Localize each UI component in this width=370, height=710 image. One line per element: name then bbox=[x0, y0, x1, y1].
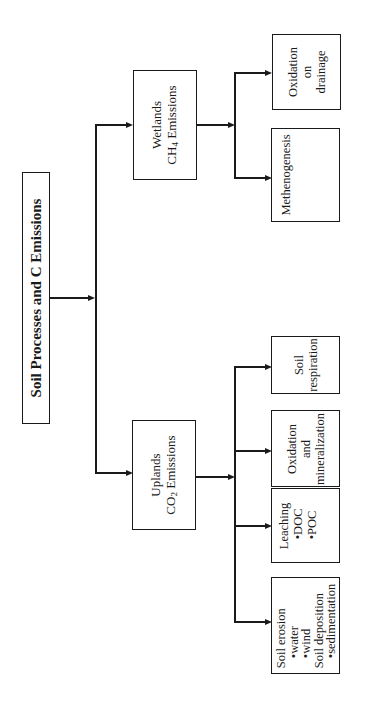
arrow-root-icon bbox=[88, 295, 95, 301]
soil-respiration-label: Soil respiration bbox=[292, 338, 320, 391]
oxidation-on-drainage-label: Oxidation on drainage bbox=[286, 47, 328, 97]
methanogenesis-box: Methenogenesis bbox=[271, 128, 340, 222]
connector-wetlands-bar bbox=[234, 72, 236, 178]
oxidation-mineralization-box: Oxidation and mineralization bbox=[271, 410, 340, 487]
leaching-label: Leaching •DOC •POC bbox=[277, 502, 319, 549]
connector-to-soil-erosion bbox=[234, 621, 266, 623]
connector-to-soil-respiration bbox=[234, 366, 266, 368]
connector-to-methanogenesis bbox=[234, 177, 266, 179]
wetlands-title: Wetlands bbox=[150, 85, 165, 164]
wetlands-subtitle: CH4 Emissions bbox=[165, 85, 180, 164]
connector-to-leaching bbox=[234, 525, 266, 527]
connector-uplands-out bbox=[196, 476, 229, 478]
arrow-wetlands-icon bbox=[126, 122, 133, 128]
uplands-label: Uplands CO2 Emissions bbox=[149, 435, 179, 514]
uplands-subtitle: CO2 Emissions bbox=[164, 435, 179, 514]
connector-to-oxidation-drainage bbox=[234, 72, 266, 74]
connector-root bbox=[50, 297, 90, 299]
connector-wetlands-out bbox=[197, 124, 229, 126]
wetlands-box: Wetlands CH4 Emissions bbox=[133, 70, 197, 180]
arrow-oxidation-drainage-icon bbox=[265, 70, 272, 76]
connector-to-wetlands bbox=[95, 124, 127, 126]
connector-trunk bbox=[95, 124, 97, 473]
soil-erosion-label: Soil erosion •water •wind Soil depositio… bbox=[274, 583, 337, 668]
oxidation-on-drainage-box: Oxidation on drainage bbox=[272, 34, 341, 110]
methanogenesis-label: Methenogenesis bbox=[279, 134, 293, 215]
root-label: Soil Processes and C Emissions bbox=[28, 199, 45, 398]
uplands-box: Uplands CO2 Emissions bbox=[132, 420, 196, 530]
oxidation-mineralization-label: Oxidation and mineralization bbox=[285, 412, 327, 484]
soil-respiration-box: Soil respiration bbox=[271, 336, 340, 394]
root-box: Soil Processes and C Emissions bbox=[22, 172, 50, 424]
uplands-title: Uplands bbox=[149, 435, 164, 514]
connector-uplands-bar bbox=[234, 366, 236, 622]
leaching-box: Leaching •DOC •POC bbox=[271, 488, 340, 563]
connector-to-oxidation-mineralization bbox=[234, 450, 266, 452]
wetlands-label: Wetlands CH4 Emissions bbox=[150, 85, 180, 164]
connector-to-uplands bbox=[95, 472, 127, 474]
soil-erosion-box: Soil erosion •water •wind Soil depositio… bbox=[271, 577, 340, 674]
